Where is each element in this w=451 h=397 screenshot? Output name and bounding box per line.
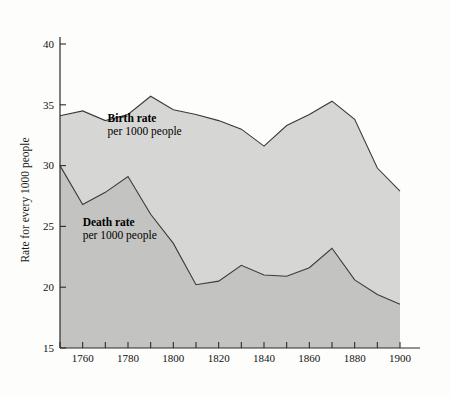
x-tick-label: 1840	[253, 352, 276, 364]
y-tick-label: 35	[43, 99, 55, 111]
death-rate-annotation-title: Death rate	[83, 216, 135, 228]
x-tick-label: 1860	[298, 352, 321, 364]
x-tick-label: 1880	[344, 352, 367, 364]
birth-rate-annotation-subtitle: per 1000 people	[108, 125, 182, 138]
y-tick-label: 40	[43, 38, 55, 50]
y-tick-label: 20	[43, 281, 55, 293]
y-tick-label: 25	[43, 220, 55, 232]
y-tick-label: 30	[43, 159, 55, 171]
x-tick-label: 1820	[208, 352, 231, 364]
x-tick-label: 1780	[117, 352, 140, 364]
birth-death-rate-area-chart: 152025303540 176017801800182018401860188…	[0, 0, 451, 397]
chart-container: 152025303540 176017801800182018401860188…	[0, 0, 451, 397]
y-axis-title: Rate for every 1000 people	[19, 137, 32, 262]
x-tick-label: 1760	[72, 352, 95, 364]
y-tick-label: 15	[43, 342, 55, 354]
x-tick-label: 1800	[162, 352, 185, 364]
death-rate-annotation-subtitle: per 1000 people	[83, 229, 157, 242]
birth-rate-annotation-title: Birth rate	[108, 112, 157, 124]
x-tick-label: 1900	[389, 352, 412, 364]
